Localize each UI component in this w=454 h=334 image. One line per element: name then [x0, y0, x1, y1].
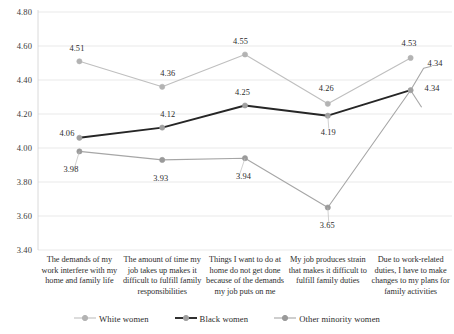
x-category-label: My job produces strain that makes it dif… [288, 255, 367, 287]
data-value-label: 3.94 [236, 172, 251, 181]
data-point-marker [160, 157, 165, 162]
data-point-marker [160, 125, 165, 130]
x-category-label: The amount of time my job takes up makes… [123, 255, 202, 297]
data-value-label: 4.25 [235, 88, 250, 97]
data-point-marker [242, 156, 247, 161]
data-value-label: 3.93 [153, 174, 168, 183]
y-tick-label: 4.80 [0, 7, 32, 17]
data-point-marker [408, 55, 413, 60]
data-value-label: 4.26 [319, 84, 334, 93]
legend-label: Black women [200, 314, 249, 324]
data-point-marker [325, 101, 330, 106]
data-value-label: 4.51 [69, 44, 84, 53]
x-category-label: The demands of my work interfere with my… [40, 255, 119, 287]
data-point-marker [242, 52, 247, 57]
y-tick-label: 4.00 [0, 143, 32, 153]
line-chart: 4.804.604.404.204.003.803.603.40 The dem… [0, 0, 454, 334]
data-point-marker [242, 103, 247, 108]
x-category-label: Due to work-related duties, I have to ma… [371, 255, 450, 297]
data-value-label: 4.34 [428, 59, 443, 68]
x-category-label: Things I want to do at home do not get d… [206, 255, 285, 297]
data-value-label: 4.34 [425, 84, 440, 93]
data-point-marker [408, 88, 413, 93]
data-point-marker [77, 59, 82, 64]
data-value-label: 4.19 [321, 128, 336, 137]
data-value-label: 4.53 [402, 39, 417, 48]
data-value-label: 4.55 [233, 37, 248, 46]
y-tick-label: 3.80 [0, 177, 32, 187]
y-tick-label: 4.60 [0, 41, 32, 51]
data-point-marker [160, 84, 165, 89]
y-tick-label: 3.40 [0, 245, 32, 255]
data-value-label: 3.65 [320, 221, 335, 230]
legend-item-2[interactable]: Other minority women [274, 313, 380, 325]
series-line-2-leader [411, 90, 422, 107]
legend-label: Other minority women [299, 314, 380, 324]
legend-item-1[interactable]: Black women [175, 313, 249, 325]
legend-marker-icon [274, 313, 296, 325]
legend-marker-icon [175, 313, 197, 325]
data-value-label: 4.36 [160, 69, 175, 78]
data-value-label: 4.12 [160, 110, 175, 119]
data-value-label: 3.98 [63, 165, 78, 174]
y-tick-label: 3.60 [0, 211, 32, 221]
legend-label: White women [99, 314, 149, 324]
y-tick-label: 4.40 [0, 75, 32, 85]
legend-marker-icon [74, 313, 96, 325]
data-point-marker [77, 135, 82, 140]
chart-legend: White womenBlack womenOther minority wom… [0, 313, 454, 325]
data-value-label: 4.06 [59, 129, 74, 138]
legend-item-0[interactable]: White women [74, 313, 149, 325]
y-tick-label: 4.20 [0, 109, 32, 119]
